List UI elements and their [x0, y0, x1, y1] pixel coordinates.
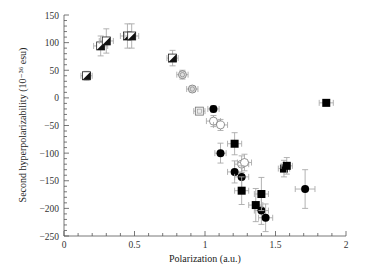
open-circle-marker-icon: [217, 121, 225, 129]
data-point: [228, 133, 242, 155]
filled-circle-marker-icon: [262, 214, 270, 222]
data-point: [208, 105, 219, 113]
y-axis-title: Second hyperpolarizability (10⁻³⁶ esu): [17, 48, 29, 203]
data-point: [319, 99, 333, 107]
filled-square-marker-icon: [238, 187, 246, 195]
x-axis-title: Polarization (a.u.): [169, 253, 241, 265]
filled-circle-marker-icon: [209, 105, 217, 113]
filled-square-marker-icon: [322, 99, 330, 107]
axes: 00.511.52−250−200−150−100−50050100150: [39, 11, 348, 251]
data-point: [187, 85, 198, 93]
filled-circle-marker-icon: [301, 185, 309, 193]
data-point: [215, 143, 226, 163]
y-tick-label: 50: [50, 66, 60, 76]
filled-square-marker-icon: [231, 140, 239, 148]
filled-square-marker-icon: [252, 201, 260, 209]
gray-circle-marker-icon: [178, 71, 186, 79]
y-tick-label: −200: [39, 204, 59, 214]
scatter-chart: 00.511.52−250−200−150−100−50050100150 Po…: [0, 0, 365, 278]
y-tick-label: 0: [54, 93, 59, 103]
y-tick-label: −50: [44, 121, 59, 131]
y-tick-label: −250: [39, 232, 59, 242]
open-square-marker-icon: [195, 107, 203, 115]
y-tick-label: 100: [45, 38, 60, 48]
y-tick-label: 150: [45, 11, 60, 21]
x-tick-label: 0.5: [129, 240, 141, 250]
data-point: [177, 70, 188, 79]
data-point: [235, 177, 249, 205]
data-point: [167, 50, 178, 65]
data-point: [237, 154, 251, 171]
data-point: [81, 71, 92, 80]
x-tick-label: 1.5: [270, 240, 282, 250]
x-tick-label: 2: [344, 240, 349, 250]
filled-square-marker-icon: [283, 162, 291, 170]
data-points: [81, 24, 333, 232]
x-tick-label: 0: [62, 240, 67, 250]
x-tick-label: 1: [203, 240, 208, 250]
data-point: [125, 24, 139, 48]
y-tick-label: −150: [39, 176, 59, 186]
y-tick-label: −100: [39, 149, 59, 159]
data-point: [194, 107, 205, 115]
data-point: [295, 170, 315, 209]
open-circle-marker-icon: [240, 159, 248, 167]
filled-square-marker-icon: [257, 190, 265, 198]
filled-circle-marker-icon: [217, 149, 225, 157]
gray-circle-marker-icon: [188, 85, 196, 93]
